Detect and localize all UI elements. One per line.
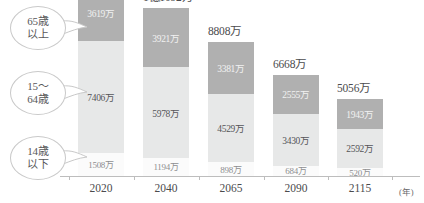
callout-children-tail bbox=[62, 150, 90, 166]
x-axis-unit-label: (年) bbox=[399, 185, 414, 197]
callout-working-age-line1: 15〜 bbox=[27, 80, 48, 93]
callout-children-line1: 14歳 bbox=[27, 145, 48, 158]
x-axis-tick-2040 bbox=[134, 176, 135, 180]
callout-elderly-line2: 以上 bbox=[27, 28, 49, 41]
callout-working-age-tail bbox=[62, 85, 90, 101]
x-axis-label-2090: 2090 bbox=[273, 182, 319, 194]
x-axis-tick-2115 bbox=[328, 176, 329, 180]
bar-segment-elderly-2090-value: 2555万 bbox=[282, 87, 310, 101]
plot-area: 3619万7406万1508万3921万5978万1194万1億1092万338… bbox=[78, 0, 424, 176]
bar-segment-children-2065: 898万 bbox=[208, 162, 254, 176]
bar-segment-working-2040-value: 5978万 bbox=[152, 106, 180, 120]
callout-children: 14歳 以下 bbox=[10, 136, 66, 180]
bar-total-label-2115: 5056万 bbox=[337, 79, 370, 95]
x-axis-tick-2020 bbox=[69, 176, 70, 180]
bar-total-label-2090: 6668万 bbox=[273, 55, 306, 71]
bar-segment-children-2040: 1194万 bbox=[143, 158, 189, 176]
callout-children-line2: 以下 bbox=[27, 158, 49, 171]
bar-segment-elderly-2065-value: 3381万 bbox=[217, 61, 245, 75]
bar-segment-working-2090-value: 3430万 bbox=[282, 133, 310, 147]
x-axis-tick-end bbox=[392, 176, 393, 180]
bar-segment-working-2020-value: 7406万 bbox=[87, 90, 115, 104]
bar-segment-elderly-2040-value: 3921万 bbox=[152, 31, 180, 45]
bar-segment-elderly-2115: 1943万 bbox=[337, 99, 383, 128]
bar-segment-working-2115: 2592万 bbox=[337, 129, 383, 168]
bar-segment-children-2090: 684万 bbox=[273, 166, 319, 176]
bar-group-2040: 3921万5978万1194万 bbox=[143, 8, 189, 176]
bar-segment-elderly-2090: 2555万 bbox=[273, 75, 319, 114]
x-axis-tick-2065 bbox=[199, 176, 200, 180]
bar-segment-working-2065: 4529万 bbox=[208, 94, 254, 163]
callout-elderly: 65歳 以上 bbox=[10, 6, 66, 50]
bar-segment-working-2040: 5978万 bbox=[143, 67, 189, 158]
bar-segment-working-2090: 3430万 bbox=[273, 114, 319, 166]
callout-working-age-line2: 64歳 bbox=[27, 93, 48, 106]
bar-segment-working-2115-value: 2592万 bbox=[346, 141, 374, 155]
x-axis-label-2065: 2065 bbox=[208, 182, 254, 194]
bar-total-label-2065: 8808万 bbox=[208, 22, 241, 38]
x-axis-label-2020: 2020 bbox=[78, 182, 124, 194]
x-axis-label-2115: 2115 bbox=[337, 182, 383, 194]
bar-total-label-2040: 1億1092万 bbox=[143, 0, 192, 4]
x-axis-label-2040: 2040 bbox=[143, 182, 189, 194]
bar-segment-elderly-2040: 3921万 bbox=[143, 8, 189, 67]
x-axis-line bbox=[60, 176, 420, 177]
x-axis-tick-2090 bbox=[264, 176, 265, 180]
population-stacked-bar-chart: 65歳 以上 15〜 64歳 14歳 以下 3619万7406万1508万392… bbox=[0, 0, 424, 203]
bar-segment-children-2040-value: 1194万 bbox=[153, 160, 178, 173]
bar-segment-children-2065-value: 898万 bbox=[220, 163, 241, 176]
bar-segment-working-2065-value: 4529万 bbox=[217, 121, 245, 135]
bar-segment-elderly-2020-value: 3619万 bbox=[87, 6, 115, 20]
bar-group-2115: 1943万2592万520万 bbox=[337, 99, 383, 176]
bar-group-2065: 3381万4529万898万 bbox=[208, 42, 254, 176]
bar-segment-children-2020-value: 1508万 bbox=[88, 158, 114, 171]
bar-segment-elderly-2065: 3381万 bbox=[208, 42, 254, 93]
bar-segment-elderly-2115-value: 1943万 bbox=[346, 107, 374, 121]
callout-working-age: 15〜 64歳 bbox=[10, 71, 66, 115]
callout-elderly-tail bbox=[62, 20, 90, 36]
bar-segment-children-2115: 520万 bbox=[337, 168, 383, 176]
bar-group-2090: 2555万3430万684万 bbox=[273, 75, 319, 176]
callout-elderly-line1: 65歳 bbox=[27, 15, 48, 28]
